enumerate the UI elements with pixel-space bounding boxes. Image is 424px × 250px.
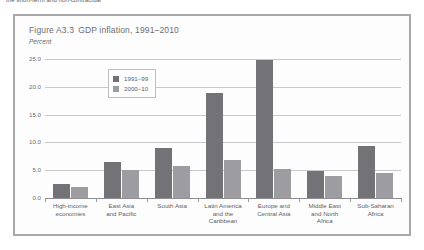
bar-group [358,59,393,198]
bar-group [256,59,291,198]
legend-swatch-2000-10 [113,86,119,92]
bar [376,173,393,198]
bar [274,169,291,198]
category-label-line: and Pacific [88,210,154,218]
bar [358,146,375,198]
chart-legend: 1991–99 2000–10 [108,69,156,98]
category-label-line: Africa [343,210,409,218]
legend-label-2000-10: 2000–10 [124,85,148,92]
y-axis-tick-label: 5.0 [15,166,41,173]
bar [206,93,223,198]
legend-label-1991-99: 1991–99 [124,75,148,82]
bar [256,60,273,198]
category-label-line: Sub-Saharan [343,202,409,210]
x-axis-category-label: Sub-SaharanAfrica [343,202,409,217]
bar [325,176,342,198]
figure-screenshot: the short-term and non-contractual Figur… [0,0,424,250]
y-axis-tick-label: 20.0 [15,83,41,90]
category-label-line: Caribbean [190,217,256,225]
bar-group [206,59,241,198]
y-axis-tick-label: 10.0 [15,138,41,145]
bar [224,160,241,198]
figure-container: Figure A3.3GDP inflation, 1991–2010 Perc… [13,14,411,236]
legend-swatch-1991-99 [113,76,119,82]
x-axis-line [45,198,401,199]
legend-item: 1991–99 [113,74,148,83]
page-running-text: the short-term and non-contractual [6,0,101,5]
bar [122,170,139,198]
bar [155,148,172,198]
bar [53,184,70,198]
chart-plot-area: 0.05.010.015.020.025.0High-incomeeconomi… [15,16,413,238]
page-bottom-strip [0,242,424,250]
bar [307,171,324,198]
bar-group [155,59,190,198]
y-axis-tick-label: 0.0 [15,194,41,201]
legend-item: 2000–10 [113,84,148,93]
bar [71,187,88,198]
bar-group [307,59,342,198]
y-axis-tick-label: 15.0 [15,111,41,118]
bar [173,166,190,198]
y-axis-tick-label: 25.0 [15,55,41,62]
bar [104,162,121,198]
bar-group [53,59,88,198]
category-label-line: Africa [292,217,358,225]
